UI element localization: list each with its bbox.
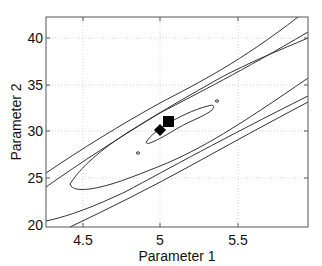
y-tick-label: 35	[27, 77, 43, 93]
x-axis-label: Parameter 1	[138, 248, 215, 264]
y-axis-label: Parameter 2	[8, 83, 24, 160]
square-marker	[163, 116, 174, 127]
x-tick-label: 5	[156, 232, 164, 248]
plot-area	[46, 17, 308, 227]
y-tick-label: 30	[27, 123, 43, 139]
x-tick-label: 5.5	[228, 232, 248, 248]
y-tick-label: 40	[27, 30, 43, 46]
x-tick-label: 4.5	[73, 232, 93, 248]
contour-plot: 4.5 5 5.5 40 35 30 25 20 Parameter 1 Par…	[0, 0, 322, 266]
y-tick-label: 25	[27, 170, 43, 186]
y-tick-label: 20	[27, 217, 43, 233]
